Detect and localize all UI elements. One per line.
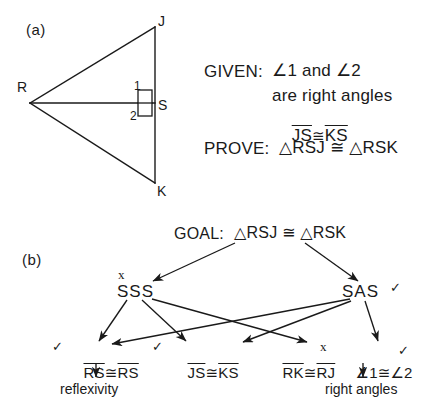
goal-heading: GOAL: <box>174 226 224 242</box>
leaf-angles-left: ∠1 <box>355 364 377 381</box>
rk-rj-mark-x: x <box>320 340 327 353</box>
edge-goal-to-sas <box>305 243 358 281</box>
leaf-rk-rj-right: RJ <box>317 364 336 381</box>
leaf-rk-rj-left: RK <box>282 364 303 381</box>
edge-goal-to-sss <box>153 243 235 281</box>
edge-sss-to-rk-rj <box>152 299 307 342</box>
rs-rs-mark-check: ✓ <box>52 340 63 353</box>
reason-right-angles: right angles <box>325 382 397 396</box>
leaf-js-ks-left: JS <box>187 364 205 381</box>
angles-mark-check: ✓ <box>398 344 409 357</box>
leaf-rk-rj-symbol: ≅ <box>304 364 317 381</box>
figure-root: (a) R J K S 1 2 GIVEN: ∠1 and ∠2 are rig… <box>0 0 433 414</box>
leaf-angles-right: ∠2 <box>390 364 412 381</box>
sas-mark-check: ✓ <box>390 281 401 294</box>
node-sss[interactable]: SSS <box>117 283 154 300</box>
js-ks-mark-check: ✓ <box>152 340 163 353</box>
sss-mark-x: x <box>118 268 125 281</box>
leaf-rs-rs-symbol: ≅ <box>105 364 118 381</box>
leaf-angles-symbol: ≅ <box>378 364 391 381</box>
edge-sas-to-js-ks <box>243 301 351 342</box>
leaf-js-ks-symbol: ≅ <box>205 364 218 381</box>
panel-b-label: (b) <box>22 252 42 267</box>
reason-reflexivity: reflexivity <box>60 382 118 396</box>
node-sas[interactable]: SAS <box>342 283 379 300</box>
edge-sas-to-angles <box>365 301 378 341</box>
edge-sss-to-rs-rs <box>99 300 127 341</box>
leaf-rs-rs-right: RS <box>118 364 139 381</box>
goal-statement: △RSJ ≅ △RSK <box>234 225 346 241</box>
leaf-js-ks[interactable]: JS≅KS <box>170 350 239 395</box>
leaf-js-ks-right: KS <box>218 364 238 381</box>
leaf-rs-rs-left: RS <box>83 364 104 381</box>
